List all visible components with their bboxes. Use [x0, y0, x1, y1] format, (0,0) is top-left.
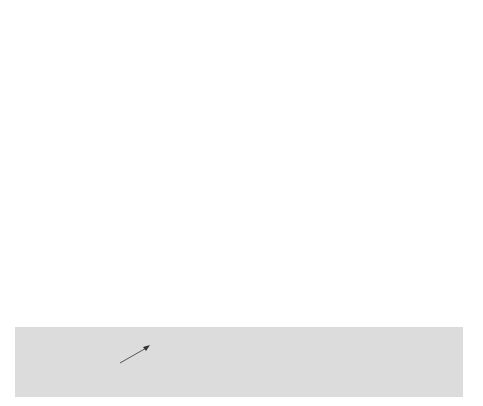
org-chart	[0, 0, 483, 406]
task-force-band	[15, 327, 463, 397]
